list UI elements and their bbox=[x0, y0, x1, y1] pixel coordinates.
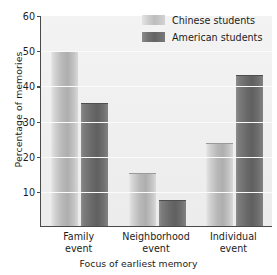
y-axis-tick-labels: 102030405060 bbox=[0, 0, 35, 275]
y-axis-tick-label: 40 bbox=[1, 81, 35, 92]
legend-item: American students bbox=[142, 31, 262, 43]
x-axis-group-label: Neighborhoodevent bbox=[122, 231, 190, 255]
x-axis-tick-labels: FamilyeventNeighborhoodeventIndividualev… bbox=[40, 231, 272, 261]
x-axis-title: Focus of earliest memory bbox=[0, 258, 277, 269]
x-axis-group-label: Individualevent bbox=[210, 231, 257, 255]
bar bbox=[129, 173, 156, 226]
bar bbox=[159, 200, 186, 226]
y-axis-tick-label: 30 bbox=[1, 116, 35, 127]
x-axis-group-label-line: event bbox=[210, 243, 257, 255]
bar-chart: Percentage of memories 102030405060 Fami… bbox=[0, 0, 277, 275]
y-axis-tick-label: 50 bbox=[1, 46, 35, 57]
x-axis-group-label-line: event bbox=[122, 243, 190, 255]
y-axis-tick-label: 10 bbox=[1, 186, 35, 197]
legend-label: Chinese students bbox=[172, 15, 255, 26]
y-axis-tick-label: 60 bbox=[1, 11, 35, 22]
x-axis-group-label-line: Family bbox=[63, 231, 94, 243]
gridline bbox=[41, 157, 272, 158]
x-axis-group-label-line: Neighborhood bbox=[122, 231, 190, 243]
bar bbox=[206, 143, 233, 226]
legend-item: Chinese students bbox=[142, 14, 262, 26]
plot-area bbox=[40, 16, 272, 227]
x-axis-group-label: Familyevent bbox=[63, 231, 94, 255]
y-axis-tick-mark bbox=[37, 16, 41, 17]
gridline bbox=[41, 122, 272, 123]
bar bbox=[236, 75, 263, 227]
gridline bbox=[41, 192, 272, 193]
legend-swatch-icon bbox=[142, 32, 165, 42]
legend-label: American students bbox=[172, 32, 262, 43]
gridline bbox=[41, 51, 272, 52]
bar bbox=[51, 51, 78, 226]
chart-legend: Chinese studentsAmerican students bbox=[142, 14, 262, 43]
x-axis-group-label-line: event bbox=[63, 243, 94, 255]
legend-swatch-icon bbox=[142, 15, 165, 25]
x-axis-group-label-line: Individual bbox=[210, 231, 257, 243]
gridline bbox=[41, 86, 272, 87]
y-axis-tick-label: 20 bbox=[1, 151, 35, 162]
